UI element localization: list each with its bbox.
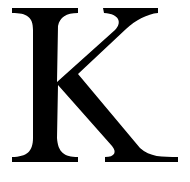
letter-k-glyph	[0, 0, 190, 182]
letter-canvas: K	[0, 0, 190, 182]
